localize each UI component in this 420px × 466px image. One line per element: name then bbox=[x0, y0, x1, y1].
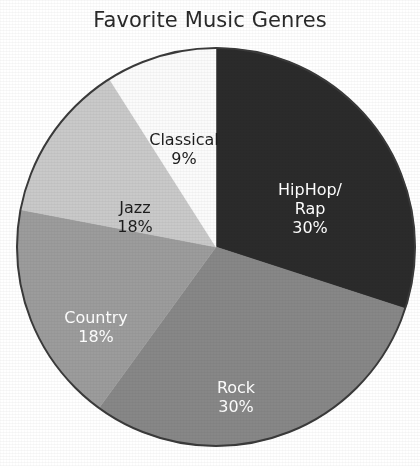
pie-svg bbox=[15, 46, 417, 448]
pie-slice-group bbox=[17, 48, 415, 446]
chart-page: Favorite Music Genres HipHop/ Rap 30% Ro… bbox=[0, 0, 420, 466]
page-title: Favorite Music Genres bbox=[0, 7, 420, 33]
pie-chart: HipHop/ Rap 30% Rock 30% Country 18% Jaz… bbox=[15, 46, 417, 448]
